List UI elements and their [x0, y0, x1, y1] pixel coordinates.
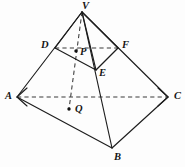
- edge-BC: [112, 97, 168, 148]
- solid-edges: [17, 12, 168, 148]
- label-point-F: F: [122, 40, 129, 51]
- label-point-A: A: [5, 91, 12, 102]
- label-point-D: D: [41, 40, 49, 51]
- label-point-C: C: [174, 91, 181, 102]
- geometry-diagram: [0, 0, 185, 167]
- label-point-V: V: [82, 1, 89, 12]
- label-point-B: B: [114, 152, 121, 163]
- edge-AB: [17, 97, 112, 148]
- label-point-Q: Q: [75, 104, 83, 115]
- point-P-dot: [74, 49, 77, 52]
- label-point-P: P: [80, 47, 86, 58]
- edge-VE: [82, 12, 96, 70]
- edge-VF: [82, 12, 118, 48]
- point-Q-dot: [67, 107, 70, 110]
- geometry-figure: V D F P E A C Q B: [0, 0, 185, 167]
- label-point-E: E: [99, 68, 106, 79]
